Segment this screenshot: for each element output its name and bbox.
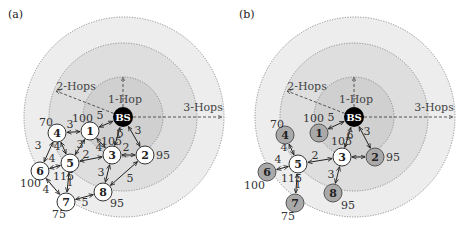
edge-weight-label: 2	[83, 148, 90, 161]
edge-weight-label: 5	[328, 111, 335, 124]
two-hop-label: 2-Hops	[56, 80, 96, 93]
panel-label: (b)	[239, 8, 255, 21]
edge-weight-label: 3	[35, 139, 42, 152]
node-id-label: 1	[315, 127, 323, 140]
hop-diagram: (a)1-Hop2-Hops3-Hops5633433424235145BS11…	[0, 0, 474, 233]
edge-weight-label: 4	[49, 152, 56, 165]
node-id-label: 2	[141, 149, 149, 162]
node-id-label: 7	[291, 197, 299, 210]
node-energy-label: 100	[244, 179, 265, 192]
base-station-label: BS	[115, 112, 131, 123]
two-hop-label: 2-Hops	[287, 80, 327, 93]
three-hop-label: 3-Hops	[183, 101, 223, 114]
panel-a: (a)1-Hop2-Hops3-Hops5633433424235145BS11…	[8, 8, 224, 221]
node-energy-label: 100	[20, 177, 41, 190]
node-id-label: 6	[263, 166, 271, 179]
edge-weight-label: 3	[364, 125, 371, 138]
node-energy-label: 75	[281, 210, 295, 223]
node-energy-label: 100	[303, 112, 324, 125]
node-id-label: 2	[371, 151, 379, 164]
edge-weight-label: 4	[43, 183, 50, 196]
edge-weight-label: 5	[127, 172, 134, 185]
node-energy-label: 100	[72, 112, 93, 125]
node-energy-label: 95	[156, 149, 170, 162]
edge-weight-label: 3	[98, 166, 105, 179]
node-energy-label: 115	[53, 170, 74, 183]
node-id-label: 8	[329, 187, 337, 200]
node-energy-label: 115	[281, 172, 302, 185]
node-id-label: 4	[53, 127, 61, 140]
node-energy-label: 105	[101, 135, 122, 148]
edge-weight-label: 5	[82, 196, 89, 209]
one-hop-label: 1-Hop	[108, 93, 142, 106]
node-energy-label: 75	[52, 208, 66, 221]
node-id-label: 3	[338, 151, 346, 164]
node-energy-label: 70	[39, 116, 53, 129]
node-energy-label: 105	[331, 135, 352, 148]
edge-weight-label: 5	[97, 109, 104, 122]
node-id-label: 1	[86, 125, 94, 138]
node-id-label: 3	[108, 149, 116, 162]
panel-b: (b)1-Hop2-Hops3-Hops56342431BS1100295310…	[239, 8, 455, 223]
edge-weight-label: 4	[275, 153, 282, 166]
node-id-label: 8	[99, 186, 107, 199]
panel-label: (a)	[8, 8, 23, 21]
node-energy-label: 70	[270, 118, 284, 131]
edge-weight-label: 2	[312, 149, 319, 162]
node-id-label: 5	[294, 158, 302, 171]
three-hop-label: 3-Hops	[414, 101, 454, 114]
one-hop-label: 1-Hop	[339, 93, 373, 106]
node-energy-label: 95	[341, 199, 355, 212]
node-energy-label: 95	[386, 151, 400, 164]
edge-weight-label: 3	[135, 124, 142, 137]
edge-weight-label: 3	[328, 168, 335, 181]
node-energy-label: 95	[110, 197, 124, 210]
base-station-label: BS	[346, 112, 362, 123]
edge-weight-label: 2	[123, 141, 130, 154]
node-id-label: 5	[66, 157, 74, 170]
